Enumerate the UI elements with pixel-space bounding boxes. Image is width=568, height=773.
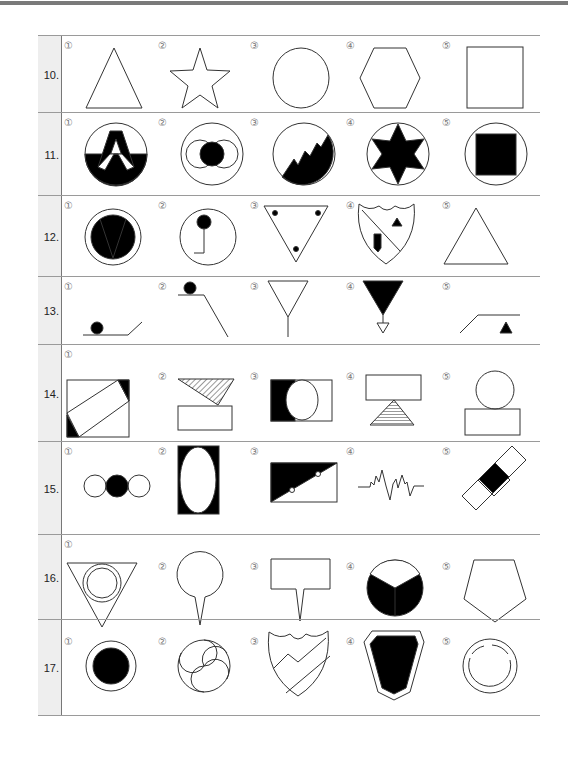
question-number: 17.	[38, 620, 62, 715]
hexagon-icon	[360, 46, 420, 110]
ringed-disc-icon	[84, 638, 142, 696]
circle-icon	[272, 46, 332, 110]
question-row-11: 11. ① ② ③ ④ ⑤	[38, 112, 540, 196]
ramp-triangle-icon	[460, 313, 524, 339]
ball-slope-icon	[178, 281, 242, 341]
three-circles-icon	[84, 474, 154, 500]
inverted-triangle-icon	[363, 281, 407, 341]
circle-star-icon	[366, 121, 430, 187]
question-table: 10. ① ② ③ ④ ⑤ 11. ① ② ③ ④ ⑤	[38, 35, 540, 715]
broken-ring-icon	[462, 638, 522, 698]
question-number: 15.	[38, 442, 62, 535]
waveform-icon	[358, 462, 428, 506]
black-circle-thirds-icon	[366, 559, 430, 623]
triangle-icon	[444, 206, 514, 266]
question-row-15: 15. ① ② ③ ④ ⑤	[38, 441, 540, 535]
question-row-13: 13. ① ② ③ ④ ⑤	[38, 276, 540, 345]
circle-mountain-icon	[272, 121, 336, 187]
ball-ramp-icon	[82, 317, 146, 341]
square-icon	[466, 46, 526, 110]
circle-dot-rings-icon	[180, 121, 244, 187]
rect-diagonal-icon	[270, 462, 340, 504]
diagonal-band-icon	[462, 446, 532, 516]
zigzag-shield-icon	[268, 630, 332, 700]
question-row-17: 17. ① ② ③ ④ ⑤	[38, 619, 540, 716]
shield-icon	[358, 202, 418, 268]
black-rect-ellipse-icon	[178, 446, 222, 516]
rect-half-black-circle-icon	[270, 379, 334, 423]
question-number: 14.	[38, 345, 62, 442]
circle-over-rect-icon	[464, 371, 524, 439]
circle-pin-icon	[176, 549, 226, 629]
square-tilted-rect-icon	[66, 379, 130, 439]
header-rule	[0, 1, 568, 5]
funnel-icon	[268, 281, 312, 341]
question-number: 11.	[38, 113, 62, 196]
swirl-circle-icon	[178, 640, 236, 698]
question-number: 16.	[38, 535, 62, 620]
question-row-14: 14. ① ② ③ ④ ⑤	[38, 344, 540, 442]
triangle-icon	[84, 46, 144, 110]
circle-pin-icon	[180, 206, 244, 270]
circle-square-icon	[464, 121, 528, 187]
question-row-16: 16. ① ② ③ ④ ⑤	[38, 534, 540, 620]
star-icon	[170, 46, 230, 110]
rect-hatched-triangle-icon	[366, 375, 426, 431]
question-number: 10.	[38, 36, 62, 113]
black-shield-icon	[364, 630, 428, 702]
signpost-icon	[270, 559, 334, 625]
circle-letter-a-icon	[84, 121, 148, 187]
pentagon-icon	[462, 559, 528, 623]
question-row-10: 10. ① ② ③ ④ ⑤	[38, 35, 540, 113]
question-number: 13.	[38, 277, 62, 345]
hatched-triangle-rect-icon	[178, 379, 238, 435]
question-row-12: 12. ① ② ③ ④ ⑤	[38, 195, 540, 277]
triangle-dots-icon	[262, 204, 332, 268]
circle-v-icon	[84, 206, 148, 270]
question-number: 12.	[38, 196, 62, 277]
